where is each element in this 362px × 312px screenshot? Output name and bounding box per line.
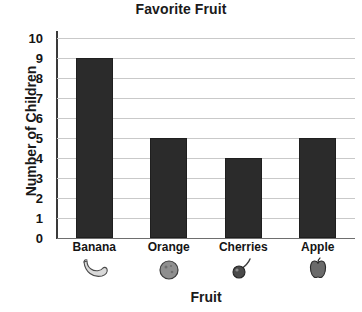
y-tick-label-3: 3 — [0, 172, 43, 185]
apple-icon — [301, 256, 335, 282]
x-tick-label-orange: Orange — [132, 240, 207, 254]
y-tick-label-8: 8 — [0, 72, 43, 85]
y-axis-tick-labels: 109876543210 — [0, 0, 52, 312]
plot-area — [57, 38, 355, 238]
bar-chart-figure: Favorite Fruit Number of Children 109876… — [0, 0, 362, 312]
y-tick-label-10: 10 — [0, 32, 43, 45]
y-tick-label-1: 1 — [0, 212, 43, 225]
x-tick-label-banana: Banana — [57, 240, 132, 254]
y-tick-label-4: 4 — [0, 152, 43, 165]
x-axis-title: Fruit — [57, 289, 355, 305]
y-tick-label-9: 9 — [0, 52, 43, 65]
x-category-apple: Apple — [281, 240, 356, 282]
y-tick-label-5: 5 — [0, 132, 43, 145]
x-tick-label-apple: Apple — [281, 240, 356, 254]
x-category-banana: Banana — [57, 240, 132, 282]
x-category-cherries: Cherries — [206, 240, 281, 282]
bar-orange — [150, 138, 187, 238]
bar-cherries — [225, 158, 262, 238]
y-tick-label-2: 2 — [0, 192, 43, 205]
y-tick-label-7: 7 — [0, 92, 43, 105]
x-axis-categories: BananaOrangeCherriesApple — [57, 240, 355, 290]
banana-icon — [77, 256, 111, 282]
x-category-orange: Orange — [132, 240, 207, 282]
y-tick-label-0: 0 — [0, 232, 43, 245]
gridline-10 — [57, 38, 355, 39]
bar-banana — [76, 58, 113, 238]
x-tick-label-cherries: Cherries — [206, 240, 281, 254]
cherries-icon — [226, 256, 260, 282]
y-tick-label-6: 6 — [0, 112, 43, 125]
gridline-0 — [57, 238, 355, 239]
chart-title: Favorite Fruit — [0, 1, 362, 17]
orange-icon — [152, 256, 186, 282]
bar-apple — [299, 138, 336, 238]
